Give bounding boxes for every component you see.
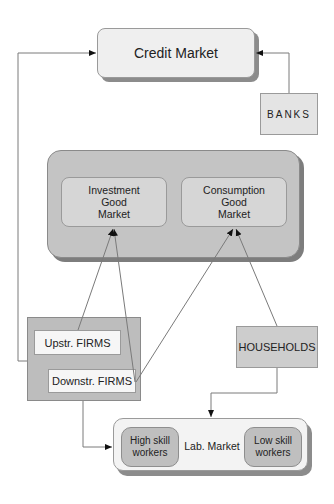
low-skill-line1: Low skill [254,435,292,447]
credit-market-node: Credit Market [97,28,255,78]
high-skill-line2: workers [130,447,170,459]
upstream-firms-label: Upstr. FIRMS [44,337,110,349]
downstream-firms-node: Downstr. FIRMS [48,369,136,393]
low-skill-workers-node: Low skill workers [244,427,302,467]
labor-market-label: Lab. Market [180,438,244,454]
investment-line1: Investment [88,184,139,196]
high-skill-workers-node: High skill workers [121,427,179,467]
consumption-line2: Good [203,196,265,208]
credit-market-label: Credit Market [134,45,218,61]
low-skill-line2: workers [254,447,292,459]
labor-market-text: Lab. Market [184,440,239,452]
consumption-good-market-node: Consumption Good Market [181,177,287,227]
downstream-firms-label: Downstr. FIRMS [52,375,132,387]
consumption-line3: Market [203,208,265,220]
banks-node: BANKS [260,93,318,135]
edge-firms-labor [83,401,112,447]
upstream-firms-node: Upstr. FIRMS [34,330,121,355]
investment-good-market-node: Investment Good Market [61,177,167,227]
consumption-line1: Consumption [203,184,265,196]
high-skill-line1: High skill [130,435,170,447]
households-label: HOUSEHOLDS [238,341,315,353]
households-node: HOUSEHOLDS [236,326,318,368]
investment-line2: Good [88,196,139,208]
banks-label: BANKS [267,109,311,120]
investment-line3: Market [88,208,139,220]
edge-banks-credit [256,53,289,93]
edge-households-labor [211,368,277,417]
